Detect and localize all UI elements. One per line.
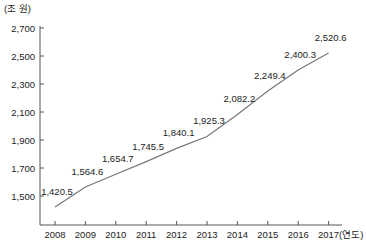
x-tick-label: 2017 — [318, 229, 339, 240]
y-axis-label: (조 원) — [4, 3, 31, 14]
x-tick-label: 2011 — [136, 229, 156, 240]
data-label: 2,520.6 — [315, 32, 347, 43]
x-tick-label: 2010 — [105, 229, 126, 240]
data-label: 2,400.3 — [284, 49, 316, 60]
data-label: 1,420.5 — [41, 186, 73, 197]
y-tick-label: 1,500 — [11, 191, 35, 202]
x-tick-label: 2008 — [44, 229, 65, 240]
x-tick-label: 2016 — [288, 229, 309, 240]
data-label: 1,745.5 — [132, 141, 164, 152]
y-tick-label: 2,700 — [11, 23, 35, 34]
x-tick-label: 2012 — [166, 229, 187, 240]
x-tick-label: 2009 — [75, 229, 96, 240]
y-tick-label: 1,700 — [11, 163, 35, 174]
x-tick-label: 2014 — [227, 229, 248, 240]
data-label: 1,925.3 — [193, 115, 225, 126]
y-tick-label: 2,300 — [11, 79, 35, 90]
data-label: 1,654.7 — [102, 153, 134, 164]
y-tick-label: 2,100 — [11, 107, 35, 118]
x-axis-label: (연도) — [339, 229, 363, 240]
y-tick-label: 2,500 — [11, 51, 35, 62]
data-label: 1,564.6 — [72, 166, 104, 177]
data-label: 1,840.1 — [163, 127, 195, 138]
y-tick-label: 1,900 — [11, 135, 35, 146]
x-tick-label: 2013 — [196, 229, 217, 240]
data-label: 2,249.4 — [254, 70, 286, 81]
data-label: 2,082.2 — [224, 93, 256, 104]
x-tick-label: 2015 — [257, 229, 278, 240]
line-chart: (조 원)2,7002,5002,3002,1001,9001,7001,500… — [0, 0, 366, 252]
